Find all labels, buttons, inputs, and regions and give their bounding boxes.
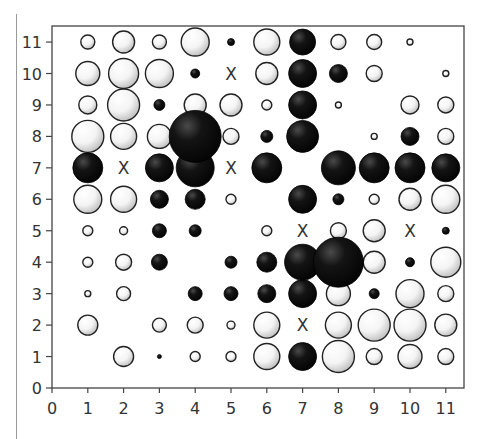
black-bubble xyxy=(224,287,238,301)
white-bubble xyxy=(81,35,95,49)
x-marker: X xyxy=(297,221,309,241)
black-bubble xyxy=(313,237,363,287)
white-bubble xyxy=(190,352,200,362)
white-bubble xyxy=(78,315,98,335)
y-tick-label: 11 xyxy=(22,33,42,52)
black-bubble xyxy=(73,153,103,183)
y-tick-label: 5 xyxy=(32,222,42,241)
black-bubble xyxy=(289,60,317,88)
white-bubble xyxy=(120,227,128,235)
white-bubble xyxy=(226,194,236,204)
black-bubble xyxy=(333,194,344,205)
black-bubble xyxy=(401,127,419,145)
white-bubble xyxy=(394,309,426,341)
white-bubble xyxy=(363,251,385,273)
white-bubble xyxy=(147,124,171,148)
y-tick-label: 0 xyxy=(32,379,42,398)
black-bubble xyxy=(257,252,277,272)
black-bubble xyxy=(395,153,425,183)
black-bubble xyxy=(145,154,173,182)
y-tick-label: 8 xyxy=(32,127,42,146)
x-marker: X xyxy=(118,158,130,178)
white-bubble xyxy=(113,31,135,53)
white-bubble xyxy=(396,280,424,308)
y-axis: 01234567891011 xyxy=(22,33,52,398)
black-bubble xyxy=(289,343,317,371)
x-tick-label: 1 xyxy=(83,399,93,418)
black-bubble xyxy=(290,29,316,55)
white-bubble xyxy=(72,120,104,152)
white-bubble xyxy=(363,220,385,242)
x-tick-label: 10 xyxy=(400,399,420,418)
white-bubble xyxy=(331,35,346,50)
white-bubble xyxy=(145,60,173,88)
white-bubble xyxy=(335,102,341,108)
y-tick-label: 1 xyxy=(32,348,42,367)
x-tick-label: 7 xyxy=(298,399,308,418)
white-bubble xyxy=(438,97,454,113)
black-bubble xyxy=(188,287,202,301)
white-bubble xyxy=(254,344,280,370)
black-bubble xyxy=(157,355,161,359)
white-bubble xyxy=(220,94,242,116)
black-bubble xyxy=(329,65,347,83)
black-bubble xyxy=(289,280,317,308)
white-bubble xyxy=(152,318,166,332)
y-tick-label: 9 xyxy=(32,96,42,115)
black-bubble xyxy=(442,227,449,234)
white-bubble xyxy=(369,194,379,204)
y-tick-label: 2 xyxy=(32,316,42,335)
black-bubble xyxy=(287,120,319,152)
white-bubble xyxy=(223,128,239,144)
black-bubble xyxy=(369,289,379,299)
white-bubble xyxy=(399,188,421,210)
black-bubble xyxy=(289,91,317,119)
white-bubble xyxy=(227,321,235,329)
black-bubble xyxy=(150,190,168,208)
x-tick-label: 2 xyxy=(119,399,129,418)
black-bubble xyxy=(258,285,276,303)
plot-area: 01234567891011 01234567891011 XXXXXX xyxy=(0,0,488,439)
black-bubble xyxy=(432,154,460,182)
black-bubble xyxy=(359,153,389,183)
black-bubble xyxy=(169,110,221,162)
y-tick-label: 7 xyxy=(32,159,42,178)
black-bubble xyxy=(191,69,200,78)
white-bubble xyxy=(330,223,346,239)
white-bubble xyxy=(401,96,419,114)
white-bubble xyxy=(254,312,280,338)
white-bubble xyxy=(108,89,140,121)
white-bubble xyxy=(367,35,382,50)
white-bubble xyxy=(117,287,131,301)
white-bubble xyxy=(407,39,413,45)
black-bubble xyxy=(261,130,273,142)
white-bubble xyxy=(398,345,422,369)
black-bubble xyxy=(185,189,205,209)
white-bubble xyxy=(83,257,93,267)
black-bubble xyxy=(154,99,165,110)
black-bubble xyxy=(228,39,235,46)
white-bubble xyxy=(109,59,139,89)
x-tick-label: 5 xyxy=(226,399,236,418)
white-bubble xyxy=(432,185,460,213)
white-bubble xyxy=(111,123,137,149)
white-bubble xyxy=(85,291,91,297)
x-tick-label: 8 xyxy=(333,399,343,418)
x-marker: X xyxy=(225,64,237,84)
black-bubble xyxy=(189,225,201,237)
white-bubble xyxy=(438,128,454,144)
black-bubble xyxy=(152,224,166,238)
white-bubble xyxy=(366,66,382,82)
white-bubble xyxy=(366,349,382,365)
bubble-chart: 01234567891011 01234567891011 XXXXXX xyxy=(0,0,488,439)
white-bubble xyxy=(438,286,454,302)
data-points: XXXXXX xyxy=(72,28,461,373)
x-marker: X xyxy=(225,158,237,178)
white-bubble xyxy=(262,100,272,110)
x-tick-label: 6 xyxy=(262,399,272,418)
x-marker: X xyxy=(297,315,309,335)
white-bubble xyxy=(83,226,93,236)
white-bubble xyxy=(438,349,454,365)
black-bubble xyxy=(406,258,415,267)
white-bubble xyxy=(79,96,97,114)
